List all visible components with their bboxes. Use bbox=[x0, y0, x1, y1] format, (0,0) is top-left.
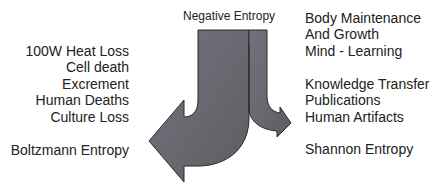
boltzmann-entropy-label: Boltzmann Entropy bbox=[11, 142, 129, 158]
right-branch-arrow bbox=[249, 30, 291, 137]
left-item: 100W Heat Loss bbox=[26, 43, 130, 59]
left-item: Human Deaths bbox=[26, 92, 130, 108]
right-item: And Growth bbox=[305, 26, 421, 42]
left-item: Cell death bbox=[26, 59, 130, 75]
left-item: Culture Loss bbox=[26, 109, 130, 125]
shannon-entropy-label: Shannon Entropy bbox=[305, 141, 413, 157]
negative-entropy-label: Negative Entropy bbox=[183, 9, 275, 23]
left-item: Excrement bbox=[26, 76, 130, 92]
left-branch-arrow bbox=[149, 30, 249, 182]
right-output-list-1: Body Maintenance And Growth Mind - Learn… bbox=[305, 10, 421, 59]
right-item: Mind - Learning bbox=[305, 43, 421, 59]
right-item: Knowledge Transfer bbox=[305, 76, 430, 92]
right-item: Body Maintenance bbox=[305, 10, 421, 26]
right-item: Human Artifacts bbox=[305, 109, 430, 125]
left-output-list: 100W Heat Loss Cell death Excrement Huma… bbox=[26, 43, 130, 125]
right-item: Publications bbox=[305, 92, 430, 108]
entropy-flow-diagram: Negative Entropy 100W Heat Loss Cell dea… bbox=[0, 0, 440, 195]
right-output-list-2: Knowledge Transfer Publications Human Ar… bbox=[305, 76, 430, 125]
